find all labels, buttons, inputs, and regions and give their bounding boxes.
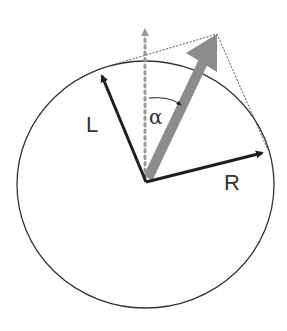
label-alpha: α (149, 105, 163, 129)
angle-arc-icon (149, 98, 180, 104)
label-R: R (224, 170, 240, 195)
vector-diagram: L R α (0, 0, 287, 331)
label-L: L (86, 112, 98, 137)
vector-L-arrow (102, 76, 146, 182)
construction-line-right (217, 34, 268, 150)
vector-R-arrow (146, 153, 262, 182)
